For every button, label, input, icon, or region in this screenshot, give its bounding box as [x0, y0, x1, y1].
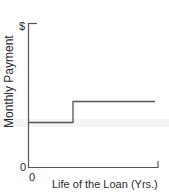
x-tick-zero: 0: [29, 171, 35, 183]
monthly-payment-step-line: [28, 102, 155, 123]
y-tick-dollar: $: [19, 20, 25, 32]
y-axis-label: Monthly Payment: [2, 35, 16, 128]
y-tick-zero: 0: [20, 161, 26, 173]
x-axis-label: Life of the Loan (Yrs.): [52, 178, 158, 190]
